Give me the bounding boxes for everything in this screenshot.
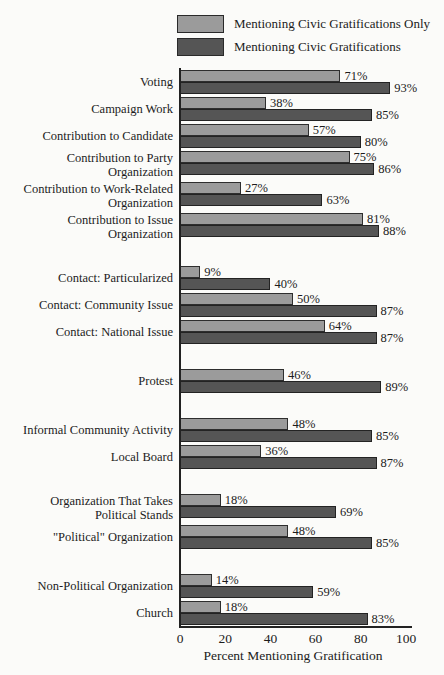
category-label: Contact: Community Issue [7, 293, 180, 317]
legend-item: Mentioning Civic Gratifications Only [177, 15, 430, 33]
bar-light: 38% [180, 97, 266, 109]
bar-light: 57% [180, 124, 309, 136]
bar-row: "Political" Organization 48% 85% [7, 525, 406, 549]
bar-pair: 81% 88% [180, 213, 406, 241]
bar-pair: 18% 69% [180, 494, 406, 522]
bar-light: 64% [180, 320, 325, 332]
bar-dark: 59% [180, 586, 313, 598]
bar-light: 81% [180, 213, 363, 225]
x-axis-title: Percent Mentioning Gratification [180, 648, 406, 664]
x-tick-label: 60 [309, 631, 323, 647]
legend-label: Mentioning Civic Gratifications Only [234, 16, 430, 32]
category-label: Protest [7, 369, 180, 393]
value-label-dark: 87% [381, 304, 404, 319]
bar-row: Non-Political Organization 14% 59% [7, 574, 406, 598]
bar-dark: 40% [180, 278, 270, 290]
value-label-dark: 63% [326, 193, 349, 208]
bar-pair: 27% 63% [180, 182, 406, 210]
bar-dark: 86% [180, 163, 374, 175]
bar-light: 14% [180, 574, 212, 586]
bar-dark: 85% [180, 537, 372, 549]
bar-pair: 48% 85% [180, 418, 406, 442]
value-label-dark: 80% [365, 135, 388, 150]
bar-pair: 18% 83% [180, 601, 406, 625]
bar-light: 48% [180, 418, 288, 430]
value-label-dark: 85% [376, 429, 399, 444]
bar-row: Campaign Work 38% 85% [7, 97, 406, 121]
bar-row: Contribution to Work-Related Organizatio… [7, 182, 406, 210]
bar-dark: 83% [180, 613, 368, 625]
bar-light: 48% [180, 525, 288, 537]
value-label-dark: 59% [317, 585, 340, 600]
bar-pair: 9% 40% [180, 266, 406, 290]
bar-dark: 85% [180, 430, 372, 442]
category-label: Contribution to Candidate [7, 124, 180, 148]
x-ticks: 020406080100 [180, 631, 406, 647]
value-label-dark: 85% [376, 108, 399, 123]
category-label: Contact: National Issue [7, 320, 180, 344]
bar-pair: 14% 59% [180, 574, 406, 598]
value-label-dark: 40% [274, 277, 297, 292]
legend-swatch-dark [177, 38, 224, 56]
bar-light: 71% [180, 70, 340, 82]
bar-light: 50% [180, 293, 293, 305]
bar-row: Informal Community Activity 48% 85% [7, 418, 406, 442]
bar-group: Contact: Particularized 9% 40% Contact: … [7, 266, 406, 344]
bar-pair: 50% 87% [180, 293, 406, 317]
value-label-dark: 86% [378, 162, 401, 177]
bar-light: 75% [180, 151, 350, 163]
value-label-dark: 87% [381, 331, 404, 346]
bar-dark: 85% [180, 109, 372, 121]
bar-row: Church 18% 83% [7, 601, 406, 625]
y-axis-line [179, 68, 181, 627]
bar-group: Informal Community Activity 48% 85% Loca… [7, 418, 406, 469]
category-label: Church [7, 601, 180, 625]
bar-group: Protest 46% 89% [7, 369, 406, 393]
bar-dark: 89% [180, 381, 381, 393]
bar-light: 36% [180, 445, 261, 457]
category-label: Local Board [7, 445, 180, 469]
bar-pair: 46% 89% [180, 369, 406, 393]
bar-pair: 75% 86% [180, 151, 406, 179]
value-label-dark: 89% [385, 380, 408, 395]
x-tick-label: 0 [177, 631, 184, 647]
bar-light: 46% [180, 369, 284, 381]
legend-swatch-light [177, 15, 224, 33]
value-label-dark: 87% [381, 456, 404, 471]
category-label: Organization That Takes Political Stands [7, 494, 180, 522]
category-label: "Political" Organization [7, 525, 180, 549]
x-tick-label: 40 [264, 631, 278, 647]
bar-light: 18% [180, 601, 221, 613]
legend-item: Mentioning Civic Gratifications [177, 38, 430, 56]
bar-pair: 71% 93% [180, 70, 406, 94]
category-label: Non-Political Organization [7, 574, 180, 598]
value-label-dark: 85% [376, 536, 399, 551]
bar-dark: 88% [180, 225, 379, 237]
category-label: Informal Community Activity [7, 418, 180, 442]
bar-row: Voting 71% 93% [7, 70, 406, 94]
category-label: Contribution to Work-Related Organizatio… [7, 182, 180, 210]
bar-group: Organization That Takes Political Stands… [7, 494, 406, 549]
bar-dark: 93% [180, 82, 390, 94]
bar-row: Local Board 36% 87% [7, 445, 406, 469]
legend: Mentioning Civic Gratifications Only Men… [177, 15, 430, 61]
bar-pair: 64% 87% [180, 320, 406, 344]
bar-group: Voting 71% 93% Campaign Work 38% 85% Con… [7, 70, 406, 241]
category-label: Campaign Work [7, 97, 180, 121]
bar-row: Contact: Community Issue 50% 87% [7, 293, 406, 317]
x-axis-line [179, 626, 412, 628]
x-tick-label: 20 [218, 631, 232, 647]
bar-row: Protest 46% 89% [7, 369, 406, 393]
figure-root: Mentioning Civic Gratifications Only Men… [0, 0, 444, 675]
category-label: Contact: Particularized [7, 266, 180, 290]
bar-dark: 87% [180, 332, 377, 344]
bar-dark: 80% [180, 136, 361, 148]
bar-pair: 48% 85% [180, 525, 406, 549]
bar-row: Contact: National Issue 64% 87% [7, 320, 406, 344]
value-label-dark: 69% [340, 505, 363, 520]
bar-dark: 87% [180, 305, 377, 317]
bar-dark: 87% [180, 457, 377, 469]
bar-light: 18% [180, 494, 221, 506]
x-tick-label: 80 [354, 631, 368, 647]
bar-dark: 69% [180, 506, 336, 518]
